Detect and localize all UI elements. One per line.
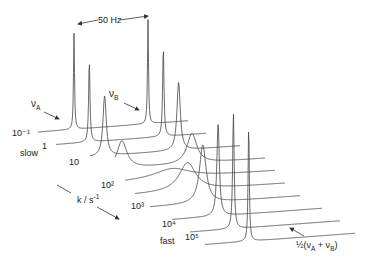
trace-label: 10 xyxy=(69,157,79,167)
stacked-spectra-plot: 10⁻¹11010²10³10⁴10⁵ xyxy=(0,0,384,270)
slow-label: slow xyxy=(20,148,38,158)
spacing-annotation: 50 Hz xyxy=(98,15,122,25)
trace-label: 10³ xyxy=(131,201,144,211)
spectrum-trace xyxy=(56,52,206,145)
trace-label: 10⁻¹ xyxy=(12,128,30,138)
trace-label: 10⁴ xyxy=(162,219,176,229)
coalesced-label: ½(νA + νB) xyxy=(296,240,337,252)
trace-label: 10⁵ xyxy=(185,232,199,242)
axis-label: k / s-1 xyxy=(77,193,99,205)
peak-b-label: νB xyxy=(109,88,118,101)
spectrum-trace xyxy=(38,20,188,132)
fast-label: fast xyxy=(160,236,175,246)
spectrum-trace xyxy=(205,132,355,244)
spectrum-trace xyxy=(150,145,300,207)
peak-a-label: νA xyxy=(31,98,40,111)
trace-label: 10² xyxy=(101,180,114,190)
trace-label: 1 xyxy=(42,141,47,151)
